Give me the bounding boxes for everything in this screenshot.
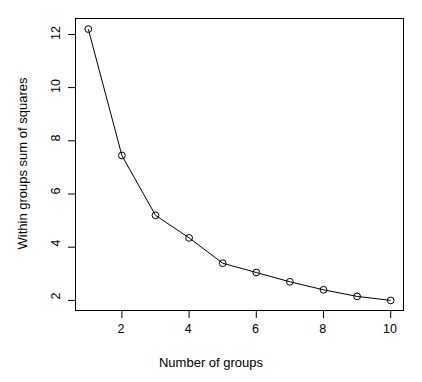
x-tick-label-6: 6 [243, 322, 267, 336]
elbow-plot-chart: 2 4 6 8 10 12 2 4 6 8 10 Within groups s… [0, 0, 422, 382]
x-tick-label-8: 8 [311, 322, 335, 336]
x-tick-label-4: 4 [176, 322, 200, 336]
data-point-markers [85, 26, 394, 304]
x-axis-ticks [122, 311, 391, 318]
y-tick-label-2: 2 [49, 284, 63, 308]
plot-area-svg [0, 0, 422, 382]
y-tick-label-4: 4 [49, 231, 63, 255]
x-tick-label-10: 10 [378, 322, 402, 336]
y-tick-label-12: 12 [49, 17, 63, 49]
data-series-line [88, 29, 390, 300]
x-tick-label-2: 2 [109, 322, 133, 336]
y-tick-label-10: 10 [49, 70, 63, 102]
y-axis-ticks [68, 35, 75, 301]
y-tick-label-8: 8 [49, 126, 63, 150]
y-axis-title: Within groups sum of squares [15, 64, 30, 264]
x-axis-title: Number of groups [0, 355, 422, 370]
y-tick-label-6: 6 [49, 179, 63, 203]
plot-box-border [76, 19, 404, 311]
